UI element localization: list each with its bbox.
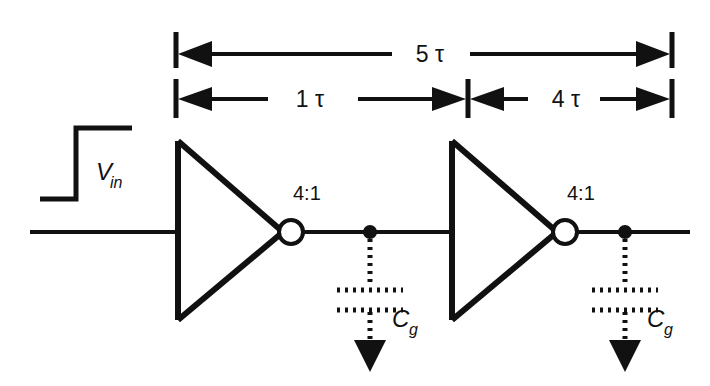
inverter-1-upper-edge (178, 141, 283, 232)
circuit-diagram-figure: 5 τ 1 τ 4 τ (0, 0, 710, 386)
diagram-canvas: 5 τ 1 τ 4 τ (0, 0, 710, 386)
segment-delay-dimensions: 1 τ 4 τ (176, 79, 672, 118)
inverter-stage-2: 4:1 (452, 141, 595, 320)
total-delay-dimension: 5 τ (176, 32, 672, 68)
first-segment-right-arrowhead (432, 87, 466, 111)
stage-2-cap-label-subscript: g (664, 321, 673, 338)
inverter-1-lower-edge (178, 232, 283, 320)
total-dimension-right-arrowhead (636, 41, 670, 67)
inverter-2-inversion-bubble (553, 220, 577, 244)
inverter-1-ratio-label: 4:1 (293, 182, 321, 204)
inverter-2-ratio-label: 4:1 (567, 182, 595, 204)
stage-1-cap-label-subscript: g (409, 321, 418, 338)
inverter-2-upper-edge (452, 141, 557, 232)
input-step-waveform: V in (40, 128, 132, 199)
stage-2-ground-arrowhead (609, 340, 641, 372)
total-dimension-left-arrowhead (178, 41, 212, 67)
stage-1-ground-arrowhead (354, 340, 386, 372)
stage-2-gate-capacitor: C g (592, 225, 673, 372)
inverter-stage-1: 4:1 (178, 141, 321, 320)
first-segment-label: 1 τ (296, 86, 324, 112)
inverter-1-inversion-bubble (279, 220, 303, 244)
second-segment-label: 4 τ (552, 86, 580, 112)
total-delay-label: 5 τ (416, 41, 444, 67)
stage-1-gate-capacitor: C g (337, 225, 418, 372)
second-segment-left-arrowhead (470, 87, 504, 111)
stage-1-node-dot (363, 225, 377, 239)
stage-2-node-dot (618, 225, 632, 239)
vin-label-subscript: in (110, 174, 123, 191)
stage-2-cap-label-main: C (647, 305, 665, 332)
first-segment-left-arrowhead (178, 87, 212, 111)
inverter-2-lower-edge (452, 232, 557, 320)
second-segment-right-arrowhead (636, 87, 670, 111)
stage-1-cap-label-main: C (392, 305, 410, 332)
